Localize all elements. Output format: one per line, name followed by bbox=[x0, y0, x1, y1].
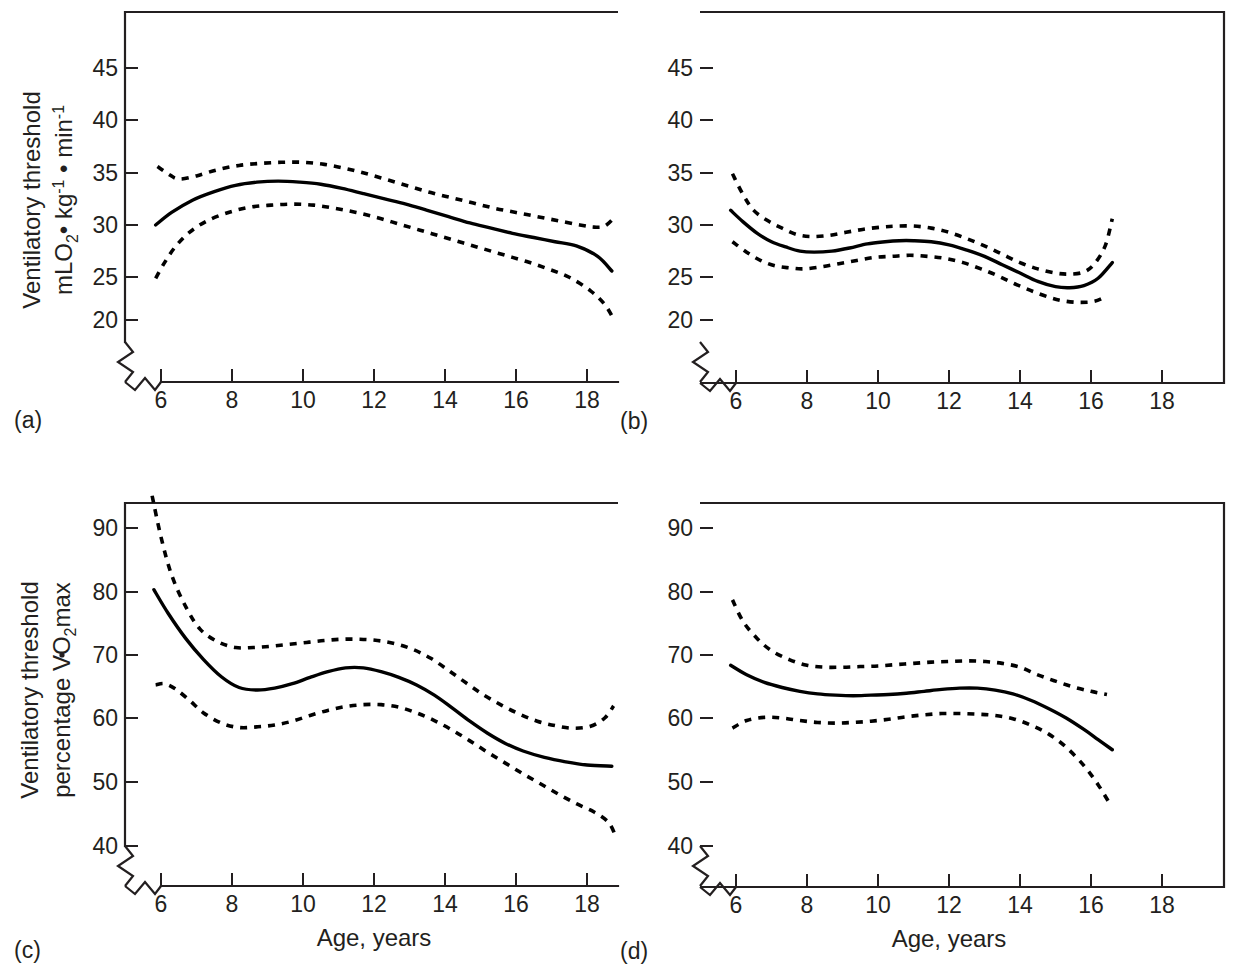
panel-c-xtick-14: 14 bbox=[432, 891, 458, 917]
panel-b-xtick-14: 14 bbox=[1007, 388, 1033, 414]
panel-c-xtick-18: 18 bbox=[574, 891, 600, 917]
panel-b-ytick-25: 25 bbox=[667, 264, 693, 290]
panel-b-frame bbox=[700, 12, 1224, 383]
panel-c-ylabel-suffix: max bbox=[48, 582, 75, 627]
panel-a-ytick-25: 25 bbox=[92, 264, 118, 290]
panel-a-x-ticks bbox=[161, 369, 587, 382]
panel-a-xtick-18: 18 bbox=[574, 387, 600, 413]
panel-a-y-axis-label: Ventilatory threshold mLO2• kg-1 • min-1 bbox=[18, 91, 81, 308]
panel-b-mean-curve bbox=[731, 210, 1113, 287]
panel-c-y-tick-labels: 90 80 70 60 50 40 bbox=[92, 515, 118, 859]
panel-b-ytick-30: 30 bbox=[667, 212, 693, 238]
panel-a-y-axis-break bbox=[118, 342, 133, 382]
panel-c-ylabel-line1: Ventilatory threshold bbox=[16, 581, 43, 798]
panel-b-letter: (b) bbox=[620, 408, 648, 434]
panel-a-mean-curve bbox=[156, 181, 612, 271]
panel-d-ytick-50: 50 bbox=[667, 769, 693, 795]
panel-b-xtick-10: 10 bbox=[865, 388, 891, 414]
panel-c-plot-curves bbox=[152, 496, 615, 836]
svg-text:percentage VO2max: percentage VO2max bbox=[48, 582, 79, 798]
panel-d-y-axis-break bbox=[693, 846, 708, 886]
panel-b-y-tick-labels: 45 40 35 30 25 20 bbox=[667, 55, 693, 333]
panel-a-lower-confidence-curve bbox=[156, 204, 614, 319]
panel-d-xtick-8: 8 bbox=[801, 892, 814, 918]
panel-d-x-axis-label: Age, years bbox=[892, 925, 1007, 952]
panel-d-ytick-60: 60 bbox=[667, 705, 693, 731]
panel-b: 45 40 35 30 25 20 6 8 10 12 bbox=[598, 0, 1243, 450]
panel-c-y-ticks bbox=[125, 528, 138, 846]
panel-c-x-tick-labels: 6 8 10 12 14 16 18 bbox=[155, 891, 600, 917]
panel-c-y-axis-break bbox=[118, 846, 133, 886]
panel-a-ylabel-prefix: mLO bbox=[50, 243, 77, 295]
panel-c-xtick-8: 8 bbox=[226, 891, 239, 917]
panel-a-ytick-45: 45 bbox=[92, 55, 118, 81]
svg-text:Ventilatory threshold: Ventilatory threshold bbox=[18, 91, 45, 308]
panel-b-x-tick-labels: 6 8 10 12 14 16 18 bbox=[730, 388, 1175, 414]
panel-b-upper-confidence-curve bbox=[732, 174, 1112, 274]
panel-a-letter: (a) bbox=[14, 407, 42, 433]
panel-d-ytick-70: 70 bbox=[667, 642, 693, 668]
panel-a-ylabel-sup2: -1 bbox=[50, 105, 67, 119]
panel-a-ylabel-mid: • kg bbox=[50, 194, 77, 234]
panel-c-ytick-90: 90 bbox=[92, 515, 118, 541]
panel-a-x-tick-labels: 6 8 10 12 14 16 18 bbox=[155, 387, 600, 413]
panel-d-xtick-16: 16 bbox=[1078, 892, 1104, 918]
panel-b-y-axis-break bbox=[693, 342, 708, 382]
panel-d-x-tick-labels: 6 8 10 12 14 16 18 bbox=[730, 892, 1175, 918]
panel-a-xtick-14: 14 bbox=[432, 387, 458, 413]
panel-b-x-ticks bbox=[736, 370, 1162, 383]
panel-c-vdot-icon bbox=[59, 652, 64, 657]
panel-c-ytick-50: 50 bbox=[92, 769, 118, 795]
panel-b-xtick-6: 6 bbox=[730, 388, 743, 414]
panel-d-xtick-12: 12 bbox=[936, 892, 962, 918]
panel-c-ytick-40: 40 bbox=[92, 833, 118, 859]
panel-c-x-ticks bbox=[161, 873, 587, 886]
panel-d-letter: (d) bbox=[620, 938, 648, 964]
panel-c-xtick-16: 16 bbox=[503, 891, 529, 917]
panel-d-ytick-40: 40 bbox=[667, 833, 693, 859]
panel-d-ytick-90: 90 bbox=[667, 515, 693, 541]
panel-a-ytick-35: 35 bbox=[92, 160, 118, 186]
panel-c-xtick-6: 6 bbox=[155, 891, 168, 917]
panel-a-ytick-20: 20 bbox=[92, 307, 118, 333]
panel-c-ytick-80: 80 bbox=[92, 579, 118, 605]
panel-d-x-ticks bbox=[736, 874, 1162, 887]
panel-a-ylabel-sup1: -1 bbox=[50, 179, 67, 193]
panel-c-xtick-10: 10 bbox=[290, 891, 316, 917]
panel-d-frame bbox=[700, 503, 1224, 887]
panel-a-y-ticks bbox=[125, 68, 138, 320]
panel-b-ytick-20: 20 bbox=[667, 307, 693, 333]
figure-container: Ventilatory threshold mLO2• kg-1 • min-1 bbox=[0, 0, 1243, 970]
panel-d: 90 80 70 60 50 40 6 8 10 12 bbox=[598, 480, 1243, 970]
svg-text:mLO2• kg-1 • min-1: mLO2• kg-1 • min-1 bbox=[50, 105, 81, 295]
panel-c-ytick-60: 60 bbox=[92, 705, 118, 731]
panel-b-xtick-12: 12 bbox=[936, 388, 962, 414]
panel-d-lower-confidence-curve bbox=[732, 713, 1110, 805]
panel-c-y-axis-label: Ventilatory threshold percentage VO2max bbox=[16, 581, 79, 798]
panel-a-plot-curves bbox=[156, 162, 616, 319]
panel-a-ytick-40: 40 bbox=[92, 107, 118, 133]
panel-c-ytick-70: 70 bbox=[92, 642, 118, 668]
panel-a-ytick-30: 30 bbox=[92, 212, 118, 238]
panel-b-xtick-8: 8 bbox=[801, 388, 814, 414]
panel-d-xtick-10: 10 bbox=[865, 892, 891, 918]
panel-b-xtick-16: 16 bbox=[1078, 388, 1104, 414]
panel-c-ylabel-prefix: percentage VO bbox=[48, 636, 75, 797]
panel-b-xtick-18: 18 bbox=[1149, 388, 1175, 414]
panel-a-xtick-10: 10 bbox=[290, 387, 316, 413]
panel-c-mean-curve bbox=[154, 590, 612, 767]
panel-a-xtick-16: 16 bbox=[503, 387, 529, 413]
svg-text:Ventilatory threshold: Ventilatory threshold bbox=[16, 581, 43, 798]
panel-b-ytick-35: 35 bbox=[667, 160, 693, 186]
panel-c-x-axis-label: Age, years bbox=[317, 924, 432, 951]
panel-b-plot-curves bbox=[731, 174, 1113, 303]
panel-a-xtick-8: 8 bbox=[226, 387, 239, 413]
panel-c: Ventilatory threshold percentage VO2max bbox=[0, 480, 640, 970]
panel-a-ylabel-sub1: 2 bbox=[64, 234, 81, 243]
panel-a-y-tick-labels: 45 40 35 30 25 20 bbox=[92, 55, 118, 333]
panel-b-ytick-40: 40 bbox=[667, 107, 693, 133]
panel-c-ylabel-sub: 2 bbox=[62, 627, 79, 636]
panel-d-upper-confidence-curve bbox=[732, 600, 1107, 695]
panel-a-upper-confidence-curve bbox=[157, 162, 615, 227]
panel-c-letter: (c) bbox=[14, 937, 41, 963]
